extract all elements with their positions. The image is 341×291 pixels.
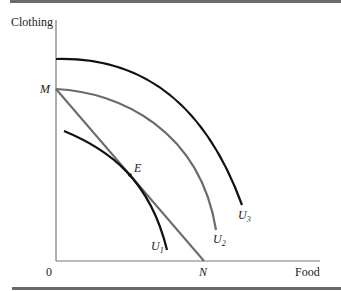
point-e-label: E (134, 161, 141, 176)
indifference-curve-u2 (56, 89, 216, 230)
u1-label: U1 (151, 239, 164, 255)
point-n-label: N (199, 265, 207, 280)
point-e-marker (128, 173, 132, 177)
u2-label: U2 (213, 232, 226, 248)
x-axis-label: Food (295, 265, 320, 280)
indifference-curve-u1 (64, 131, 167, 250)
y-axis-label: Clothing (11, 15, 53, 30)
indifference-curve-u3 (56, 59, 242, 205)
u3-label: U3 (238, 208, 251, 224)
diagram-canvas (0, 0, 341, 291)
point-m-label: M (40, 82, 50, 97)
origin-label: 0 (46, 265, 52, 280)
